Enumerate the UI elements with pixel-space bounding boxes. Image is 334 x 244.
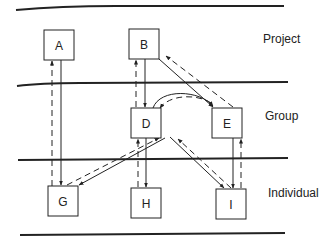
divider-top bbox=[16, 6, 284, 10]
edge-d-to-i bbox=[170, 137, 224, 188]
node-e-label: E bbox=[223, 117, 231, 131]
level-label-individual: Individual bbox=[268, 186, 319, 200]
edge-g-to-d bbox=[67, 138, 159, 185]
divider-project-group bbox=[17, 82, 288, 86]
level-label-project: Project bbox=[263, 32, 301, 46]
node-h: H bbox=[131, 188, 161, 218]
edge-d-to-g bbox=[79, 138, 165, 185]
node-h-label: H bbox=[142, 197, 151, 211]
node-a-label: A bbox=[55, 39, 63, 53]
edge-i-to-d bbox=[178, 139, 231, 188]
node-g: G bbox=[48, 186, 78, 216]
divider-bottom bbox=[20, 233, 285, 235]
node-g-label: G bbox=[58, 195, 67, 209]
node-i: I bbox=[216, 189, 246, 219]
level-label-group: Group bbox=[265, 109, 299, 123]
node-b-label: B bbox=[140, 38, 148, 52]
nodes: A B D E G H I bbox=[44, 29, 246, 219]
node-d-label: D bbox=[142, 117, 151, 131]
hierarchy-diagram: A B D E G H I Project Group Individ bbox=[0, 0, 334, 244]
node-e: E bbox=[212, 108, 242, 138]
node-b: B bbox=[129, 29, 159, 59]
divider-group-individual bbox=[18, 158, 288, 160]
node-d: D bbox=[131, 108, 161, 138]
node-i-label: I bbox=[229, 198, 232, 212]
node-a: A bbox=[44, 30, 74, 60]
level-labels: Project Group Individual bbox=[263, 32, 319, 200]
